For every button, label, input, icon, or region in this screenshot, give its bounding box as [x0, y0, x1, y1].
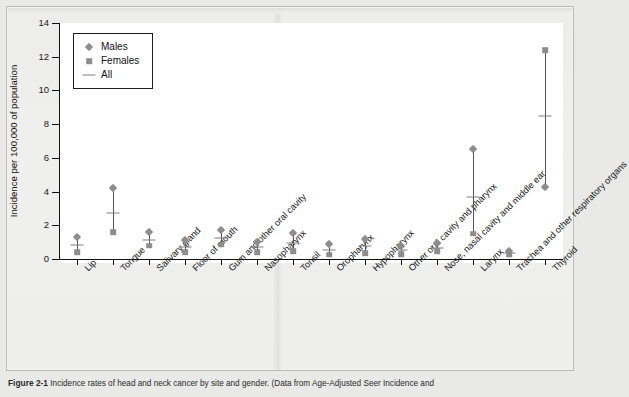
y-tick-label: 8 — [44, 119, 49, 129]
data-point-males — [469, 145, 477, 153]
data-point-males — [145, 228, 153, 236]
data-point-females — [434, 249, 440, 255]
data-point-females — [506, 252, 512, 258]
dash-marker-icon — [82, 68, 98, 81]
y-axis-title: Incidence per 100,000 of population — [8, 65, 19, 218]
data-point-males — [325, 240, 333, 248]
range-connector — [545, 50, 546, 187]
x-tick — [113, 259, 114, 265]
y-tick-label: 2 — [44, 221, 49, 231]
diamond-marker-icon — [82, 40, 98, 53]
data-point-females — [362, 250, 368, 256]
y-tick — [52, 124, 59, 125]
y-axis-line — [59, 23, 60, 259]
y-tick-label: 12 — [38, 52, 49, 62]
x-tick — [257, 259, 258, 265]
data-point-females — [542, 47, 548, 53]
square-marker-icon — [82, 54, 98, 67]
y-tick — [52, 225, 59, 226]
data-point-females — [110, 229, 116, 235]
legend-item-males: Males — [82, 40, 139, 53]
x-tick — [185, 259, 186, 265]
y-tick-label: 14 — [38, 18, 49, 28]
y-tick-label: 10 — [38, 86, 49, 96]
data-point-females — [146, 243, 152, 249]
data-point-males — [73, 233, 81, 241]
y-tick-label: 4 — [44, 187, 49, 197]
x-tick — [473, 259, 474, 265]
data-point-all — [287, 242, 300, 243]
legend-item-females: Females — [82, 54, 139, 67]
legend-label-females: Females — [98, 55, 139, 66]
x-tick — [329, 259, 330, 265]
x-tick — [365, 259, 366, 265]
chart-legend: Males Females All — [73, 33, 153, 89]
legend-label-males: Males — [98, 41, 128, 52]
figure-caption: Figure 2-1 Incidence rates of head and n… — [8, 378, 574, 389]
data-point-all — [143, 239, 156, 240]
data-point-females — [218, 242, 224, 248]
data-point-females — [398, 251, 404, 257]
data-point-all — [215, 237, 228, 238]
figure-caption-text: Incidence rates of head and neck cancer … — [50, 379, 434, 388]
y-tick-label: 6 — [44, 153, 49, 163]
figure-caption-label: Figure 2-1 — [8, 378, 48, 388]
legend-label-all: All — [98, 69, 112, 80]
y-tick — [52, 57, 59, 58]
range-connector — [473, 149, 474, 233]
data-point-males — [109, 184, 117, 192]
y-tick-label: 0 — [44, 254, 49, 264]
x-tick — [221, 259, 222, 265]
data-point-females — [182, 249, 188, 255]
x-tick — [545, 259, 546, 265]
y-tick — [52, 23, 59, 24]
y-tick — [52, 192, 59, 193]
x-tick — [293, 259, 294, 265]
scanned-plate: Incidence per 100,000 of population 0246… — [6, 6, 574, 371]
y-tick — [52, 259, 59, 260]
data-point-all — [323, 249, 336, 250]
y-tick — [52, 90, 59, 91]
x-tick — [149, 259, 150, 265]
data-point-all — [107, 213, 120, 214]
data-point-females — [470, 231, 476, 237]
data-point-males — [541, 182, 549, 190]
x-tick — [77, 259, 78, 265]
x-tick — [437, 259, 438, 265]
data-point-all — [539, 115, 552, 116]
data-point-all — [71, 244, 84, 245]
data-point-all — [467, 196, 480, 197]
data-point-females — [74, 249, 80, 255]
data-point-females — [326, 252, 332, 258]
range-connector — [113, 188, 114, 232]
x-tick — [401, 259, 402, 265]
data-point-all — [251, 247, 264, 248]
y-tick — [52, 158, 59, 159]
data-point-females — [290, 249, 296, 255]
data-point-females — [254, 249, 260, 255]
data-point-all — [359, 246, 372, 247]
legend-item-all: All — [82, 68, 139, 81]
incidence-chart: Incidence per 100,000 of population 0246… — [59, 23, 563, 263]
data-point-all — [179, 247, 192, 248]
x-tick — [509, 259, 510, 265]
